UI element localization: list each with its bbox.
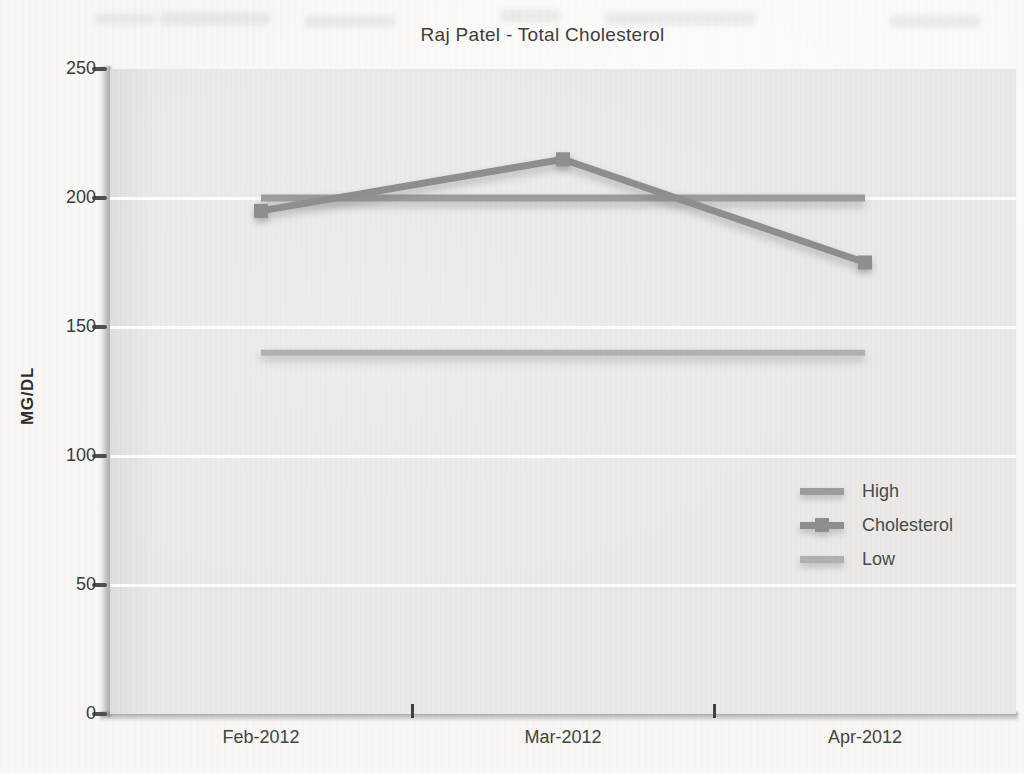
legend-swatch-low [800, 556, 844, 563]
x-tick-label-2: Apr-2012 [785, 727, 945, 748]
chart-title: Raj Patel - Total Cholesterol [90, 24, 995, 46]
legend-item-cholesterol: Cholesterol [800, 508, 953, 542]
y-tick-label-250: 250 [0, 58, 96, 79]
legend-swatch-high [800, 488, 844, 495]
bleed-through-smudge [95, 14, 155, 24]
x-tick-label-1: Mar-2012 [483, 727, 643, 748]
x-tick-2 [713, 704, 716, 718]
y-tick-label-150: 150 [0, 316, 96, 337]
bleed-through-smudge [500, 10, 560, 22]
legend-label-low: Low [862, 549, 895, 570]
series-marker-cholesterol-2 [858, 256, 872, 270]
legend-label-high: High [862, 481, 899, 502]
series-line-cholesterol [261, 159, 865, 262]
series-chart [110, 69, 1016, 714]
y-axis-title: MG/DL [18, 367, 38, 425]
y-tick-label-50: 50 [0, 574, 96, 595]
y-tick-label-100: 100 [0, 445, 96, 466]
series-marker-cholesterol-0 [254, 204, 268, 218]
legend-item-high: High [800, 474, 953, 508]
legend-label-cholesterol: Cholesterol [862, 515, 953, 536]
legend-swatch-cholesterol [800, 522, 844, 529]
y-tick-label-0: 0 [0, 703, 96, 724]
plot-area [110, 69, 1016, 714]
scanned-chart-page: Raj Patel - Total Cholesterol MG/DL 0501… [0, 0, 1024, 773]
series-marker-cholesterol-1 [556, 152, 570, 166]
chart-legend: HighCholesterolLow [800, 474, 953, 576]
legend-marker-cholesterol [815, 518, 829, 532]
x-tick-label-0: Feb-2012 [181, 727, 341, 748]
x-tick-1 [411, 704, 414, 718]
legend-item-low: Low [800, 542, 953, 576]
y-tick-label-200: 200 [0, 187, 96, 208]
